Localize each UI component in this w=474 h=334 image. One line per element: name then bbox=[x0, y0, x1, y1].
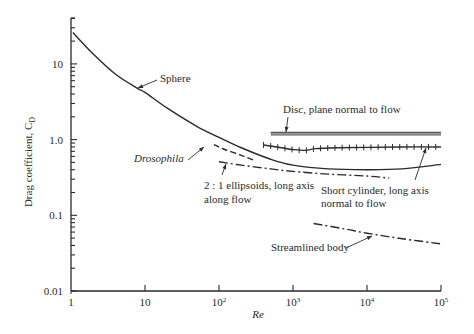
svg-text:2 : 1 ellipsoids, long axis: 2 : 1 ellipsoids, long axis bbox=[204, 179, 314, 191]
leader-line bbox=[415, 148, 426, 180]
annotation-disc-plane-normal-to-flow: Disc, plane normal to flow bbox=[283, 103, 401, 132]
svg-text:Short cylinder, long axis: Short cylinder, long axis bbox=[321, 184, 429, 196]
y-axis-label-subscript: D bbox=[28, 117, 37, 123]
x-tick-label: 103 bbox=[286, 296, 301, 308]
x-tick-label: 10 bbox=[140, 296, 152, 308]
y-axis-label-main: Drag coefficient, C bbox=[22, 123, 34, 207]
arrowhead-icon bbox=[285, 127, 289, 132]
annotation-sphere: Sphere bbox=[138, 72, 191, 88]
y-tick-label: 0.1 bbox=[49, 209, 63, 221]
x-tick-label: 102 bbox=[212, 296, 227, 308]
annotation-short-cylinder-long-axis: Short cylinder, long axis bbox=[321, 148, 429, 196]
annotation-along-flow: along flow bbox=[204, 193, 251, 205]
svg-text:Streamlined body: Streamlined body bbox=[271, 241, 349, 253]
series-group bbox=[73, 32, 441, 243]
annotation-normal-to-flow: normal to flow bbox=[321, 197, 386, 209]
arrowhead-icon bbox=[222, 164, 226, 169]
x-tick-label: 1 bbox=[68, 296, 74, 308]
axes: 0.010.11.010110102103104105 bbox=[44, 18, 449, 308]
series-short-cylinder-long-axis-normal-to-flow bbox=[264, 142, 441, 153]
x-tick-label: 104 bbox=[360, 296, 375, 308]
arrowhead-icon bbox=[138, 84, 143, 88]
series-disc-plane-normal-to-flow bbox=[271, 132, 441, 135]
arrowhead-icon bbox=[422, 148, 426, 153]
drag-coefficient-chart: 0.010.11.010110102103104105 SphereDrosop… bbox=[0, 0, 474, 334]
arrowhead-icon bbox=[367, 236, 372, 240]
series-drosophila bbox=[214, 145, 255, 161]
svg-text:Sphere: Sphere bbox=[160, 72, 191, 84]
annotation-streamlined-body: Streamlined body bbox=[271, 236, 372, 253]
y-tick-label: 0.01 bbox=[44, 285, 63, 297]
svg-text:along flow: along flow bbox=[204, 193, 251, 205]
x-axis-label: Re bbox=[251, 308, 264, 320]
svg-text:Disc, plane normal to flow: Disc, plane normal to flow bbox=[283, 103, 401, 115]
y-tick-label: 1.0 bbox=[49, 134, 63, 146]
x-tick-label: 105 bbox=[434, 296, 449, 308]
svg-text:normal to flow: normal to flow bbox=[321, 197, 386, 209]
svg-text:Drosophila: Drosophila bbox=[133, 152, 184, 164]
annotation-drosophila: Drosophila bbox=[133, 147, 204, 164]
y-axis-label: Drag coefficient, CD bbox=[22, 117, 37, 207]
y-tick-label: 10 bbox=[52, 58, 64, 70]
